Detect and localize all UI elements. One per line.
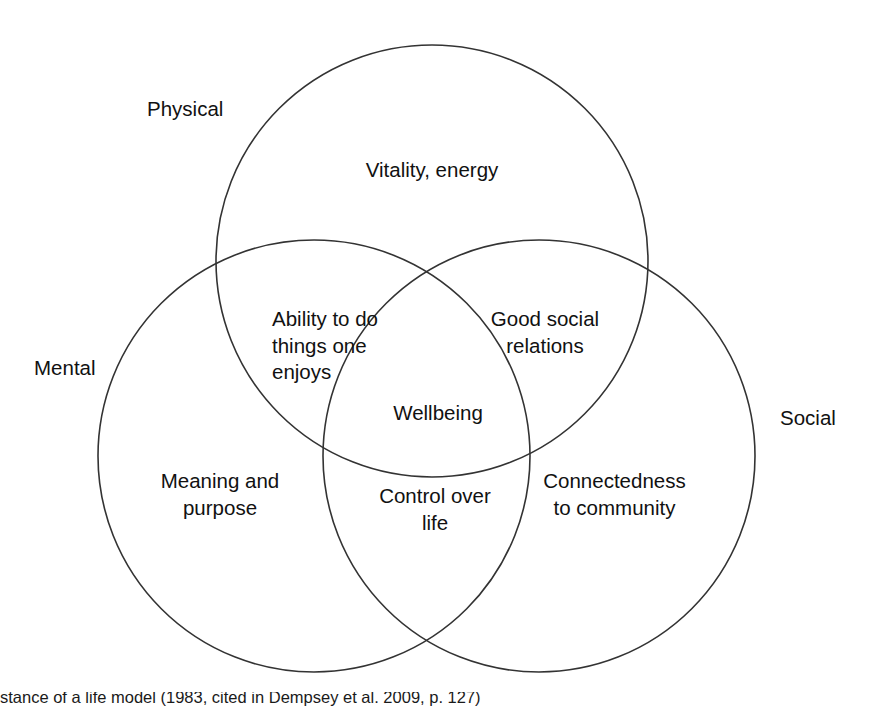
- region-label-mental-social: Control over life: [360, 483, 510, 536]
- region-label-physical-social: Good social relations: [460, 306, 630, 359]
- region-label-physical-only: Vitality, energy: [332, 157, 532, 184]
- figure-caption-text: stance of a life model (1983, cited in D…: [0, 692, 481, 706]
- set-label-mental: Mental: [34, 355, 96, 382]
- region-label-social-only: Connectedness to community: [512, 468, 717, 521]
- venn-diagram: Physical Mental Social Vitality, energy …: [0, 0, 873, 707]
- figure-caption: stance of a life model (1983, cited in D…: [0, 692, 873, 707]
- region-label-center-wellbeing: Wellbeing: [368, 400, 508, 427]
- region-label-mental-only: Meaning and purpose: [125, 468, 315, 521]
- circle-mental: [98, 240, 530, 672]
- circle-social: [323, 240, 755, 672]
- set-label-physical: Physical: [147, 96, 223, 123]
- venn-circles: [0, 0, 873, 707]
- set-label-social: Social: [780, 405, 836, 432]
- region-label-physical-mental: Ability to do things one enjoys: [272, 306, 432, 386]
